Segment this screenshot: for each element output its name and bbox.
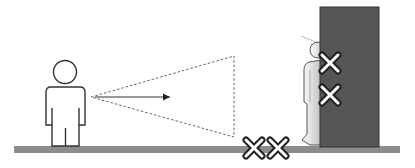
pillar <box>320 7 379 147</box>
observer-person-icon <box>46 61 85 147</box>
diagram-canvas: Observer looking toward a wall; a person… <box>0 0 415 168</box>
